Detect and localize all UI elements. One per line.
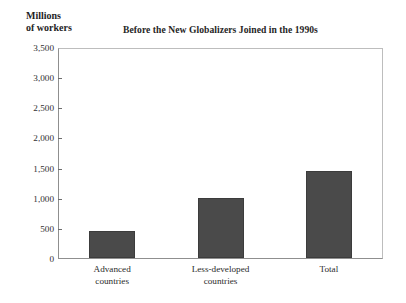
y-axis: 05001,0001,5002,0002,5003,0003,500	[0, 0, 54, 303]
x-axis-category-label-line: Advanced	[52, 264, 172, 276]
y-axis-tick-label: 0	[49, 254, 54, 264]
y-axis-tick-label: 2,500	[33, 103, 54, 113]
chart-title: Before the New Globalizers Joined in the…	[58, 24, 383, 35]
x-axis-category-label-line: Total	[269, 264, 389, 276]
x-axis-category-label-line: countries	[52, 276, 172, 288]
bar-chart-figure: Millions of workers Before the New Globa…	[0, 0, 406, 303]
y-axis-tick-label: 3,500	[33, 43, 54, 53]
y-axis-tick-mark	[58, 199, 62, 200]
y-axis-tick-mark	[58, 229, 62, 230]
bar	[198, 198, 244, 258]
bar	[306, 171, 352, 258]
x-axis-category-label-line: countries	[161, 276, 281, 288]
y-axis-tick-mark	[58, 138, 62, 139]
y-axis-tick-label: 500	[40, 224, 54, 234]
y-axis-tick-mark	[58, 78, 62, 79]
y-axis-tick-label: 1,500	[33, 164, 54, 174]
x-axis-category-label-line: Less-developed	[161, 264, 281, 276]
x-axis-category-label: Less-developedcountries	[161, 264, 281, 287]
y-axis-tick-mark	[58, 108, 62, 109]
bar	[89, 231, 135, 258]
y-axis-tick-label: 1,000	[33, 194, 54, 204]
x-axis-category-label: Advancedcountries	[52, 264, 172, 287]
y-axis-tick-mark	[58, 169, 62, 170]
x-axis-category-label: Total	[269, 264, 389, 276]
y-axis-tick-label: 3,000	[33, 73, 54, 83]
bars-layer	[59, 49, 382, 258]
y-axis-tick-label: 2,000	[33, 133, 54, 143]
